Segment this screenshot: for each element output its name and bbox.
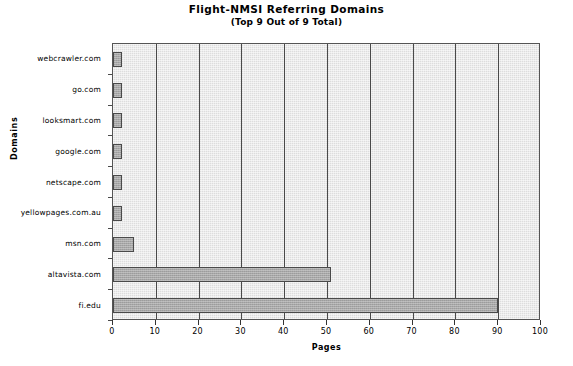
y-axis-label-looksmart.com: looksmart.com (43, 115, 101, 124)
bar-yellowpages.com.au[interactable] (113, 206, 122, 221)
chart-subtitle: (Top 9 Out of 9 Total) (0, 16, 573, 28)
y-axis-label-google.com: google.com (55, 146, 101, 155)
x-tick-label-30: 30 (225, 327, 255, 336)
y-axis-label-msn.com: msn.com (65, 239, 101, 248)
x-tick-40 (283, 320, 284, 325)
bar-series (113, 44, 539, 319)
x-tick-label-10: 10 (140, 327, 170, 336)
x-tick-label-20: 20 (183, 327, 213, 336)
x-tick-label-80: 80 (439, 327, 469, 336)
y-axis-label-netscape.com: netscape.com (46, 177, 101, 186)
bar-netscape.com[interactable] (113, 175, 122, 190)
x-tick-label-50: 50 (311, 327, 341, 336)
x-tick-10 (155, 320, 156, 325)
y-axis-label-fi.edu: fi.edu (79, 300, 101, 309)
x-tick-100 (540, 320, 541, 325)
x-axis-title: Pages (112, 343, 541, 352)
bar-google.com[interactable] (113, 144, 122, 159)
y-axis-label-yellowpages.com.au: yellowpages.com.au (21, 208, 101, 217)
bar-webcrawler.com[interactable] (113, 52, 122, 67)
bar-altavista.com[interactable] (113, 267, 331, 282)
x-tick-label-0: 0 (97, 327, 127, 336)
x-tick-label-90: 90 (482, 327, 512, 336)
x-tick-30 (240, 320, 241, 325)
x-tick-50 (326, 320, 327, 325)
x-tick-70 (412, 320, 413, 325)
chart-title: Flight-NMSI Referring Domains (0, 3, 573, 16)
y-axis-label-group: webcrawler.comgo.comlooksmart.comgoogle.… (0, 43, 108, 320)
chart-title-block: Flight-NMSI Referring Domains (Top 9 Out… (0, 3, 573, 28)
bar-msn.com[interactable] (113, 237, 134, 252)
bar-go.com[interactable] (113, 83, 122, 98)
x-tick-label-100: 100 (525, 327, 555, 336)
bar-looksmart.com[interactable] (113, 113, 122, 128)
x-tick-20 (198, 320, 199, 325)
bar-fi.edu[interactable] (113, 298, 498, 313)
x-tick-label-60: 60 (354, 327, 384, 336)
y-axis-label-altavista.com: altavista.com (48, 269, 101, 278)
x-tick-80 (454, 320, 455, 325)
x-tick-label-40: 40 (268, 327, 298, 336)
x-tick-0 (112, 320, 113, 325)
plot-area (112, 43, 540, 320)
y-axis-label-webcrawler.com: webcrawler.com (37, 54, 101, 63)
x-tick-60 (369, 320, 370, 325)
y-axis-label-go.com: go.com (72, 85, 101, 94)
x-tick-90 (497, 320, 498, 325)
x-tick-label-70: 70 (397, 327, 427, 336)
